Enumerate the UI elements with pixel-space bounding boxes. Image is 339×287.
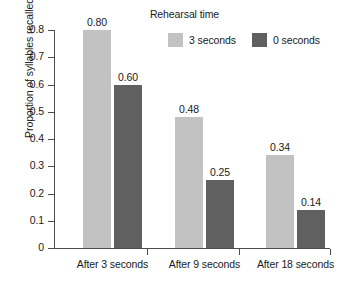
bar-value-label: 0.48 (171, 103, 207, 115)
y-axis-tick (48, 221, 54, 222)
y-axis-tick (48, 139, 54, 140)
x-axis-separator-tick (239, 249, 240, 255)
y-axis-tick-label: 0.7 (4, 50, 44, 62)
legend-label-0-seconds: 0 seconds (273, 34, 320, 46)
bar-value-label: 0.14 (293, 196, 329, 208)
bar (175, 117, 203, 248)
x-axis-separator-tick (330, 249, 331, 255)
y-axis-tick (48, 30, 54, 31)
y-axis-tick-label: 0.3 (4, 159, 44, 171)
y-axis-tick-label: 0.2 (4, 187, 44, 199)
bar-value-label: 0.34 (262, 141, 298, 153)
legend-swatch-icon-0-seconds (252, 33, 267, 47)
y-axis-tick-label: 0.6 (4, 78, 44, 90)
y-axis-tick (48, 194, 54, 195)
bar (114, 85, 142, 249)
y-axis-tick (48, 248, 54, 249)
bar-chart: Rehearsal time 3 seconds 0 seconds Propo… (0, 0, 339, 287)
legend: 3 seconds 0 seconds (168, 33, 320, 47)
legend-label-3-seconds: 3 seconds (189, 34, 236, 46)
y-axis-line (54, 30, 55, 249)
legend-entry-0-seconds: 0 seconds (252, 33, 320, 47)
bar (83, 30, 111, 248)
y-axis-tick-label: 0.5 (4, 105, 44, 117)
bar-value-label: 0.60 (110, 71, 146, 83)
y-axis-tick-label: 0.1 (4, 214, 44, 226)
y-axis-tick (48, 112, 54, 113)
bar (206, 180, 234, 248)
legend-title: Rehearsal time (0, 8, 339, 20)
legend-entry-3-seconds: 3 seconds (168, 33, 236, 47)
bar (266, 155, 294, 248)
bar (297, 210, 325, 248)
legend-swatch-icon-3-seconds (168, 33, 183, 47)
y-axis-tick (48, 57, 54, 58)
bar-value-label: 0.25 (202, 166, 238, 178)
y-axis-tick-label: 0.8 (4, 23, 44, 35)
y-axis-tick (48, 166, 54, 167)
x-axis-line (54, 248, 330, 249)
y-axis-tick-label: 0.4 (4, 132, 44, 144)
bar-value-label: 0.80 (79, 16, 115, 28)
x-axis-separator-tick (147, 249, 148, 255)
x-axis-category-label: After 18 seconds (238, 258, 339, 270)
y-axis-tick (48, 85, 54, 86)
y-axis-tick-label: 0 (4, 241, 44, 253)
